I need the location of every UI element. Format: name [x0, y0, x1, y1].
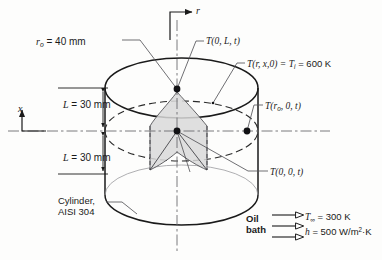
- oil-bath-label: Oil bath: [246, 214, 266, 235]
- half-length-top-label: L = 30 mm: [63, 99, 111, 110]
- half-length-bottom-value: = 30 mm: [71, 152, 110, 163]
- oil-bath-line-2: bath: [246, 225, 266, 236]
- top-center-node: [174, 86, 181, 93]
- free-stream-temperature-label: T∞ = 300 K: [305, 212, 351, 223]
- surface-temp-args-tail: , 0, t): [281, 101, 301, 111]
- h-symbol: h: [305, 227, 310, 237]
- mid-surface-node: [244, 128, 251, 135]
- initial-temp-value: = 600 K: [298, 58, 331, 69]
- x-axis-label: x: [18, 103, 22, 114]
- radius-dimension-label: ro = 40 mm: [36, 36, 86, 49]
- radius-subscript: o: [40, 41, 44, 48]
- radius-value: = 40 mm: [46, 36, 85, 47]
- half-length-bottom-label: L = 30 mm: [63, 152, 111, 163]
- h-value: = 500 W/m: [312, 226, 358, 237]
- cylinder-bottom-rear-arc: [105, 165, 258, 195]
- center-temp-args: (0, 0, t): [275, 167, 303, 177]
- leader-ro: [122, 40, 177, 89]
- initial-temp-args: (r, x,0) =: [252, 59, 286, 69]
- top-center-temperature-label: T(0, L, t): [206, 36, 240, 47]
- figure-root: ro = 40 mm r x T(0, L, t) T(r, x,0) = Ti…: [0, 0, 382, 260]
- leader-T0Lt: [177, 41, 204, 89]
- r-axis-arrow: [170, 12, 192, 40]
- material-label: Cylinder, AISI 304: [58, 196, 95, 217]
- oil-bath-arrows: [272, 215, 296, 237]
- x-axis-arrow: [22, 110, 46, 131]
- half-length-top-symbol: L: [63, 99, 69, 110]
- r-axis-label: r: [196, 5, 200, 16]
- initial-temp-subscript: i: [294, 63, 295, 70]
- mid-center-node: [174, 128, 181, 135]
- half-length-top-value: = 30 mm: [71, 99, 110, 110]
- t-inf-value: = 300 K: [318, 211, 351, 222]
- t-inf-subscript: ∞: [310, 216, 315, 223]
- surface-temperature-label: T(ro, 0, t): [265, 101, 301, 112]
- center-temperature-label: T(0, 0, t): [270, 167, 303, 178]
- material-line-2: AISI 304: [58, 207, 95, 218]
- half-length-bottom-symbol: L: [63, 152, 69, 163]
- initial-temp-node: [212, 102, 215, 105]
- convection-coefficient-label: h = 500 W/m2·K: [305, 226, 372, 237]
- leader-cylinder: [106, 202, 137, 214]
- leader-Tro0t: [247, 105, 263, 131]
- h-unit-tail: ·K: [362, 226, 372, 237]
- top-center-temp-args: (0, L, t): [211, 36, 240, 46]
- initial-temperature-label: T(r, x,0) = Ti = 600 K: [247, 59, 331, 70]
